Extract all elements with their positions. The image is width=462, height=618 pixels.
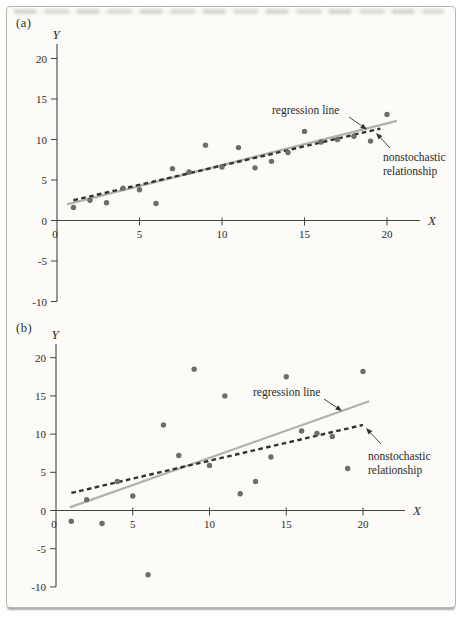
y-tick-label: -10 [31, 581, 46, 593]
data-point [207, 463, 212, 468]
figure-stage: (a) YX20151050-5-1005101520regression li… [0, 0, 462, 618]
y-tick-label: 15 [35, 390, 47, 402]
data-point [318, 139, 323, 144]
x-tick-label: 0 [52, 228, 58, 240]
data-point [99, 521, 104, 526]
data-point [299, 428, 304, 433]
y-tick-label: -5 [37, 543, 47, 555]
data-point [170, 166, 175, 171]
data-point [69, 518, 74, 523]
data-point [360, 369, 365, 374]
data-point [252, 165, 257, 170]
y-tick-label: 0 [42, 215, 48, 227]
y-tick-label: 15 [36, 93, 48, 105]
regression-annotation-arrow-head [360, 124, 367, 130]
data-point [104, 200, 109, 205]
y-tick-label: 0 [41, 505, 47, 517]
y-axis-label: Y [51, 327, 60, 342]
y-tick-label: 20 [35, 352, 47, 364]
data-point [176, 453, 181, 458]
data-point [285, 150, 290, 155]
nonstochastic-annotation: nonstochastic [383, 151, 446, 163]
data-point [87, 198, 92, 203]
y-tick-label: -10 [32, 296, 47, 308]
y-tick-label: 5 [42, 174, 48, 186]
data-point [269, 159, 274, 164]
x-tick-label: 10 [204, 518, 216, 530]
data-point [191, 366, 196, 371]
regression-line [70, 401, 369, 507]
nonstochastic-annotation: relationship [383, 165, 438, 178]
data-point [238, 491, 243, 496]
regression-annotation-arrow-shaft [349, 117, 362, 126]
nonstochastic-annotation-arrow-shaft [370, 433, 381, 444]
x-tick-label: 20 [358, 518, 370, 530]
x-tick-label: 5 [130, 518, 136, 530]
y-tick-label: 10 [35, 428, 47, 440]
y-tick-label: 10 [36, 134, 48, 146]
x-axis-label: X [412, 503, 422, 518]
data-point [253, 479, 258, 484]
data-point [335, 137, 340, 142]
data-point [84, 497, 89, 502]
data-point [71, 205, 76, 210]
scatter-plot-a: YX20151050-5-1005101520regression lineno… [0, 14, 462, 314]
y-axis-label: Y [52, 27, 61, 42]
data-point [368, 138, 373, 143]
data-point [137, 187, 142, 192]
data-point [330, 434, 335, 439]
data-point [115, 479, 120, 484]
scatter-plot-b: YX20151050-5-1005101520regression lineno… [0, 318, 462, 618]
x-axis-label: X [427, 213, 437, 228]
nonstochastic-annotation-arrow-shaft [380, 138, 390, 148]
x-tick-label: 15 [299, 228, 311, 240]
y-tick-label: -5 [38, 255, 48, 267]
data-point [345, 466, 350, 471]
y-tick-label: 20 [36, 53, 48, 65]
data-point [236, 145, 241, 150]
data-point [120, 185, 125, 190]
data-point [384, 112, 389, 117]
x-tick-label: 10 [217, 228, 229, 240]
data-point [268, 454, 273, 459]
data-point [284, 374, 289, 379]
data-point [145, 572, 150, 577]
x-tick-label: 15 [281, 518, 293, 530]
regression-annotation-arrow-head [335, 405, 342, 411]
y-tick-label: 5 [41, 466, 47, 478]
nonstochastic-annotation: nonstochastic [368, 450, 431, 462]
data-point [222, 393, 227, 398]
data-point [219, 164, 224, 169]
x-tick-label: 0 [51, 518, 57, 530]
x-tick-label: 5 [137, 228, 143, 240]
nonstochastic-annotation: relationship [368, 464, 423, 477]
data-point [203, 142, 208, 147]
data-point [186, 169, 191, 174]
data-point [314, 431, 319, 436]
data-point [351, 134, 356, 139]
regression-line-annotation: regression line [272, 104, 339, 117]
x-tick-label: 20 [382, 228, 394, 240]
regression-annotation-arrow-shaft [324, 399, 337, 407]
data-point [302, 129, 307, 134]
regression-line-annotation: regression line [253, 386, 320, 399]
data-point [130, 493, 135, 498]
data-point [161, 422, 166, 427]
data-point [153, 201, 158, 206]
